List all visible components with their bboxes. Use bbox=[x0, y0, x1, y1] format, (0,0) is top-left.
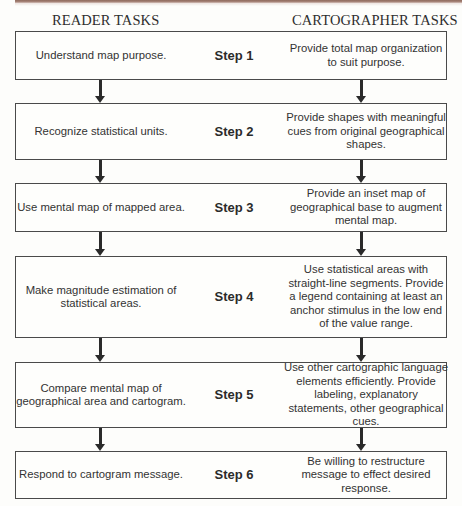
arrow-down-icon bbox=[356, 160, 366, 183]
step-label-5: Step 5 bbox=[194, 363, 274, 427]
reader-task-5: Compare mental map of geographical area … bbox=[16, 363, 186, 427]
step-label-3: Step 3 bbox=[194, 184, 274, 231]
step-box-4: Make magnitude estimation of statistical… bbox=[15, 256, 447, 338]
cartographer-task-4: Use statistical areas with straight-line… bbox=[284, 257, 448, 337]
reader-task-1: Understand map purpose. bbox=[16, 32, 186, 79]
arrow-down-icon bbox=[356, 232, 366, 256]
reader-task-3: Use mental map of mapped area. bbox=[16, 184, 186, 231]
reader-task-6: Respond to cartogram message. bbox=[16, 452, 186, 498]
step-label-4: Step 4 bbox=[194, 257, 274, 337]
arrow-down-icon bbox=[95, 232, 105, 256]
step-box-3: Use mental map of mapped area. Step 3 Pr… bbox=[15, 183, 447, 232]
arrow-down-icon bbox=[95, 428, 105, 451]
arrow-down-icon bbox=[95, 338, 105, 362]
reader-task-2: Recognize statistical units. bbox=[16, 104, 186, 159]
cartographer-tasks-header: CARTOGRAPHER TASKS bbox=[292, 12, 458, 29]
arrow-down-icon bbox=[95, 160, 105, 183]
arrow-down-icon bbox=[356, 80, 366, 103]
step-box-6: Respond to cartogram message. Step 6 Be … bbox=[15, 451, 447, 499]
cartographer-task-1: Provide total map organization to suit p… bbox=[284, 32, 448, 79]
cartographer-task-5: Use other cartographic language elements… bbox=[284, 363, 448, 427]
cartographer-task-3: Provide an inset map of geographical bas… bbox=[284, 184, 448, 231]
step-label-1: Step 1 bbox=[194, 32, 274, 79]
cartographer-task-6: Be willing to restructure message to eff… bbox=[284, 452, 448, 498]
step-box-5: Compare mental map of geographical area … bbox=[15, 362, 447, 428]
arrow-down-icon bbox=[356, 428, 366, 451]
step-box-1: Understand map purpose. Step 1 Provide t… bbox=[15, 31, 447, 80]
reader-task-4: Make magnitude estimation of statistical… bbox=[16, 257, 186, 337]
cartographer-task-2: Provide shapes with meaningful cues from… bbox=[284, 104, 448, 159]
step-label-2: Step 2 bbox=[194, 104, 274, 159]
arrow-down-icon bbox=[356, 338, 366, 362]
reader-tasks-header: READER TASKS bbox=[52, 12, 159, 29]
step-box-2: Recognize statistical units. Step 2 Prov… bbox=[15, 103, 447, 160]
top-band-shadow bbox=[15, 3, 462, 6]
arrow-down-icon bbox=[95, 80, 105, 103]
step-label-6: Step 6 bbox=[194, 452, 274, 498]
